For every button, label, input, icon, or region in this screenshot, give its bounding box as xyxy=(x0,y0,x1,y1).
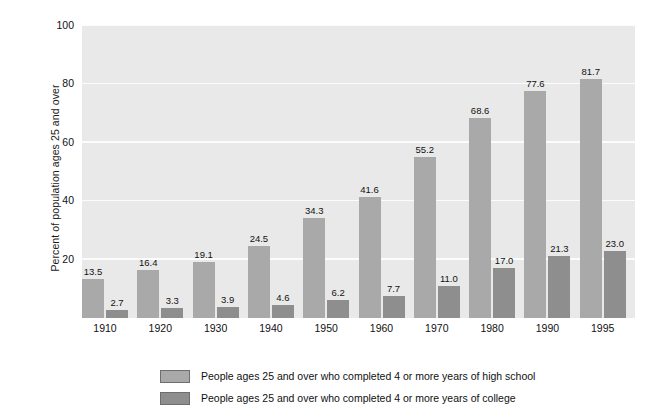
bar-value-high-school-1930: 19.1 xyxy=(189,250,219,260)
legend-label-college: People ages 25 and over who completed 4 … xyxy=(201,392,516,404)
x-tick-label-1950: 1950 xyxy=(295,322,357,334)
x-tick-label-1920: 1920 xyxy=(129,322,191,334)
y-tick-label-100: 100 xyxy=(40,20,74,31)
bar-value-high-school-1990: 77.6 xyxy=(520,79,550,89)
x-tick-label-1990: 1990 xyxy=(516,322,578,334)
bar-high-school-1910 xyxy=(82,279,104,318)
legend-item-college: People ages 25 and over who completed 4 … xyxy=(160,388,630,407)
x-tick-label-1995: 1995 xyxy=(572,322,634,334)
bar-value-high-school-1995: 81.7 xyxy=(576,67,606,77)
x-tick-label-1970: 1970 xyxy=(406,322,468,334)
bar-value-college-1940: 4.6 xyxy=(268,293,298,303)
bar-value-college-1990: 21.3 xyxy=(544,244,574,254)
bar-high-school-1920 xyxy=(137,270,159,318)
bar-value-college-1960: 7.7 xyxy=(379,284,409,294)
bar-value-high-school-1940: 24.5 xyxy=(244,234,274,244)
bar-high-school-1995 xyxy=(580,79,602,318)
bar-college-1940 xyxy=(272,305,294,318)
plot-area: 13.52.716.43.319.13.924.54.634.36.241.67… xyxy=(82,26,635,318)
bar-college-1960 xyxy=(383,296,405,318)
bar-high-school-1940 xyxy=(248,246,270,318)
bar-college-1970 xyxy=(438,286,460,318)
bar-college-1910 xyxy=(106,310,128,318)
high-school-swatch xyxy=(160,370,190,383)
bar-college-1930 xyxy=(217,307,239,318)
legend-label-high-school: People ages 25 and over who completed 4 … xyxy=(201,370,535,382)
bar-high-school-1960 xyxy=(359,197,381,318)
bar-value-college-1920: 3.3 xyxy=(157,296,187,306)
bar-value-high-school-1950: 34.3 xyxy=(299,206,329,216)
legend-item-high-school: People ages 25 and over who completed 4 … xyxy=(160,366,630,386)
chart-legend: People ages 25 and over who completed 4 … xyxy=(160,366,630,407)
x-tick-label-1930: 1930 xyxy=(185,322,247,334)
college-swatch xyxy=(160,392,190,405)
gridline-60 xyxy=(82,141,635,143)
bar-value-high-school-1920: 16.4 xyxy=(133,258,163,268)
y-tick-label-20: 20 xyxy=(40,254,74,265)
bar-high-school-1970 xyxy=(414,157,436,318)
x-tick-label-1960: 1960 xyxy=(351,322,413,334)
bar-college-1920 xyxy=(161,308,183,318)
bar-high-school-1930 xyxy=(193,262,215,318)
x-tick-label-1980: 1980 xyxy=(461,322,523,334)
x-tick-label-1910: 1910 xyxy=(74,322,136,334)
bar-college-1950 xyxy=(327,300,349,318)
y-tick-label-80: 80 xyxy=(40,78,74,89)
bar-value-college-1950: 6.2 xyxy=(323,288,353,298)
bar-value-high-school-1970: 55.2 xyxy=(410,145,440,155)
bar-value-high-school-1980: 68.6 xyxy=(465,106,495,116)
bar-value-college-1980: 17.0 xyxy=(489,256,519,266)
bar-chart-figure: Percent of population ages 25 and over 2… xyxy=(0,0,652,407)
y-tick-label-60: 60 xyxy=(40,137,74,148)
bar-value-college-1910: 2.7 xyxy=(102,298,132,308)
gridline-100 xyxy=(82,25,635,27)
y-tick-label-40: 40 xyxy=(40,195,74,206)
bar-college-1990 xyxy=(548,256,570,318)
bar-high-school-1990 xyxy=(524,91,546,318)
bar-value-college-1995: 23.0 xyxy=(600,239,630,249)
bar-college-1980 xyxy=(493,268,515,318)
bar-value-college-1930: 3.9 xyxy=(213,295,243,305)
bar-value-high-school-1960: 41.6 xyxy=(355,185,385,195)
x-tick-label-1940: 1940 xyxy=(240,322,302,334)
bar-high-school-1980 xyxy=(469,118,491,318)
bar-value-high-school-1910: 13.5 xyxy=(78,267,108,277)
gridline-80 xyxy=(82,83,635,85)
bar-value-college-1970: 11.0 xyxy=(434,274,464,284)
bar-high-school-1950 xyxy=(303,218,325,318)
bar-college-1995 xyxy=(604,251,626,318)
